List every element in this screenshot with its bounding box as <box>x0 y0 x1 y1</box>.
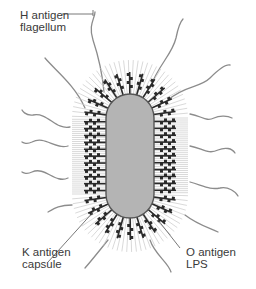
h-antigen-label-line2: flagellum <box>20 21 69 33</box>
o-antigen-label-line1: O antigen <box>186 246 236 258</box>
o-antigen-label: O antigen LPS <box>186 246 236 270</box>
h-antigen-label-line1: H antigen <box>20 9 69 21</box>
cell-body <box>106 94 154 218</box>
k-antigen-label-line2: capsule <box>22 258 71 270</box>
k-antigen-label: K antigen capsule <box>22 246 71 270</box>
h-antigen-label: H antigen flagellum <box>20 9 69 33</box>
k-antigen-label-line1: K antigen <box>22 246 71 258</box>
o-antigen-label-line2: LPS <box>186 258 236 270</box>
